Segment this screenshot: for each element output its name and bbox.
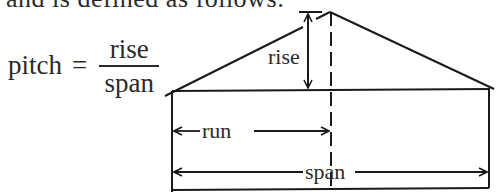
rise-dimension: rise [268,12,322,88]
roof-left-slope-top [316,12,330,19]
run-label: run [202,118,231,143]
rise-label: rise [268,44,300,69]
span-dimension: span [174,159,487,184]
roof-right-slope [330,12,494,89]
floor-line [172,188,489,190]
ceiling-beam [172,89,490,91]
span-label: span [305,159,345,184]
roof-pitch-diagram: rise run span [0,0,496,194]
roof-outline [165,12,494,96]
run-dimension: run [174,118,329,143]
